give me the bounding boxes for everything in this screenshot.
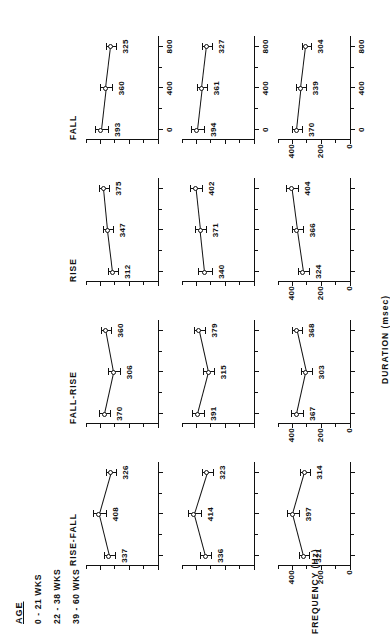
- x-tick: [350, 88, 355, 89]
- data-point[interactable]: [103, 86, 108, 91]
- data-point[interactable]: [199, 86, 204, 91]
- data-line-segment: [292, 514, 304, 556]
- data-point[interactable]: [203, 554, 208, 559]
- y-tick-minor: [210, 565, 211, 569]
- error-bar-cap-bottom: [108, 126, 109, 133]
- error-bar-cap-top: [301, 369, 302, 376]
- data-point[interactable]: [303, 44, 308, 49]
- y-tick-minor: [335, 565, 336, 569]
- y-tick: [100, 565, 101, 570]
- plot-panel-fall-rise-row0: 370306360: [86, 320, 158, 424]
- error-bar-cap-bottom: [115, 552, 116, 559]
- y-tick-label: 0: [345, 286, 354, 308]
- data-point[interactable]: [298, 86, 303, 91]
- y-tick: [196, 565, 197, 570]
- data-point[interactable]: [193, 186, 198, 191]
- data-point[interactable]: [204, 44, 209, 49]
- data-point[interactable]: [98, 128, 103, 133]
- error-bar-cap-top: [194, 327, 195, 334]
- error-bar-cap-bottom: [106, 511, 107, 518]
- data-point[interactable]: [202, 270, 207, 275]
- plot-panel-rise-row1: 340371402: [182, 178, 254, 282]
- y-tick-minor: [182, 281, 183, 285]
- data-point[interactable]: [198, 228, 203, 233]
- data-point[interactable]: [111, 370, 116, 375]
- age-legend-item-0: 0 - 21 WKS: [33, 569, 43, 624]
- data-point[interactable]: [108, 44, 113, 49]
- data-point[interactable]: [206, 370, 211, 375]
- error-bar-cap-top: [100, 85, 101, 92]
- data-point[interactable]: [103, 328, 108, 333]
- data-point-value-label: 312: [123, 260, 132, 284]
- y-tick-minor: [239, 423, 240, 427]
- x-tick: [350, 372, 355, 373]
- data-point[interactable]: [300, 270, 305, 275]
- data-point-value-label: 336: [216, 544, 225, 568]
- data-point[interactable]: [101, 186, 106, 191]
- y-tick-minor: [86, 281, 87, 285]
- data-point[interactable]: [108, 470, 113, 475]
- y-tick-minor: [114, 565, 115, 569]
- data-point-value-label: 337: [120, 544, 129, 568]
- data-point-value-label: 404: [303, 176, 312, 200]
- plot-panel-fall-rise-row1: 391315379: [182, 320, 254, 424]
- x-tick: [158, 188, 163, 189]
- data-point-value-label: 340: [217, 260, 226, 284]
- data-point[interactable]: [301, 554, 306, 559]
- error-bar-cap-bottom: [303, 410, 304, 417]
- y-tick-label: 0: [345, 428, 354, 450]
- data-point[interactable]: [294, 128, 299, 133]
- x-tick-minor: [158, 392, 162, 393]
- y-tick-label: 200: [316, 286, 325, 308]
- y-tick-minor: [306, 281, 307, 285]
- error-bar-cap-bottom: [306, 85, 307, 92]
- x-tick: [158, 372, 163, 373]
- x-tick-minor: [254, 108, 258, 109]
- error-bar-cap-bottom: [205, 327, 206, 334]
- y-tick-minor: [143, 281, 144, 285]
- data-line-segment: [101, 88, 107, 130]
- x-tick-minor: [350, 392, 354, 393]
- x-tick: [254, 514, 259, 515]
- x-tick-minor: [350, 67, 354, 68]
- error-bar-cap-top: [192, 410, 193, 417]
- error-bar-cap-top: [203, 369, 204, 376]
- error-bar-cap-top: [106, 469, 107, 476]
- data-point[interactable]: [303, 370, 308, 375]
- error-bar-cap-top: [106, 43, 107, 50]
- data-point[interactable]: [110, 270, 115, 275]
- y-axis-label: FREQUENCY (Hz): [310, 548, 320, 634]
- error-bar-cap-top: [200, 552, 201, 559]
- data-point[interactable]: [302, 470, 307, 475]
- data-point[interactable]: [294, 412, 299, 417]
- x-tick-label: 800: [357, 34, 366, 58]
- error-bar-cap-bottom: [113, 227, 114, 234]
- y-tick-minor: [86, 423, 87, 427]
- y-tick-label: 400: [287, 570, 296, 592]
- x-tick-minor: [158, 534, 162, 535]
- error-bar-cap-top: [191, 126, 192, 133]
- x-tick: [158, 129, 163, 130]
- data-point[interactable]: [106, 554, 111, 559]
- data-point-value-label: 370: [307, 118, 316, 142]
- x-tick-minor: [158, 108, 162, 109]
- data-point[interactable]: [194, 128, 199, 133]
- error-bar-cap-top: [292, 327, 293, 334]
- data-point-value-label: 347: [118, 218, 127, 242]
- data-point[interactable]: [290, 512, 295, 517]
- data-point[interactable]: [102, 412, 107, 417]
- y-tick-minor: [182, 139, 183, 143]
- data-point[interactable]: [204, 470, 209, 475]
- x-tick: [254, 230, 259, 231]
- plot-panel-rise-row0: 312347375: [86, 178, 158, 282]
- y-axis-line: [86, 281, 158, 282]
- data-point[interactable]: [195, 412, 200, 417]
- x-tick: [254, 271, 259, 272]
- age-legend-item-1: 22 - 38 WKS: [52, 569, 62, 624]
- data-point[interactable]: [105, 228, 110, 233]
- x-tick-minor: [158, 67, 162, 68]
- error-bar-cap-top: [103, 227, 104, 234]
- data-line-segment: [194, 514, 207, 556]
- error-bar-cap-bottom: [212, 43, 213, 50]
- error-bar-cap-top: [292, 227, 293, 234]
